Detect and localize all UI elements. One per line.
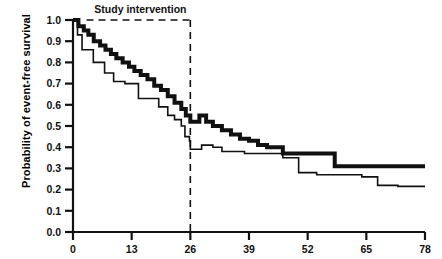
y-tick-label: 0.5 — [46, 120, 61, 132]
y-tick-label: 0.0 — [46, 226, 61, 238]
y-axis-ticks: 0.00.10.20.30.40.50.60.70.80.91.0 — [46, 14, 73, 238]
kaplan-meier-chart: 0.00.10.20.30.40.50.60.70.80.91.0 013263… — [0, 0, 442, 259]
study-intervention-label: Study intervention — [94, 3, 186, 15]
survival-curves — [73, 20, 425, 186]
survival-curve-2 — [73, 20, 425, 186]
x-tick-label: 65 — [360, 243, 372, 255]
survival-curve-1 — [73, 20, 425, 166]
x-tick-label: 26 — [184, 243, 196, 255]
y-tick-label: 1.0 — [46, 14, 61, 26]
y-tick-label: 0.1 — [46, 205, 61, 217]
x-tick-label: 39 — [243, 243, 255, 255]
x-tick-label: 0 — [70, 243, 76, 255]
y-tick-label: 0.9 — [46, 35, 61, 47]
y-tick-label: 0.4 — [46, 141, 61, 153]
y-tick-label: 0.3 — [46, 162, 61, 174]
x-tick-label: 13 — [126, 243, 138, 255]
y-tick-label: 0.8 — [46, 56, 61, 68]
y-tick-label: 0.2 — [46, 183, 61, 195]
axes — [73, 20, 425, 232]
y-tick-label: 0.6 — [46, 99, 61, 111]
y-tick-label: 0.7 — [46, 77, 61, 89]
x-axis-ticks: 0132639526578 — [70, 232, 431, 255]
x-tick-label: 52 — [302, 243, 314, 255]
figure-container: Probability of event-free survival 0.00.… — [0, 0, 442, 259]
x-tick-label: 78 — [419, 243, 431, 255]
